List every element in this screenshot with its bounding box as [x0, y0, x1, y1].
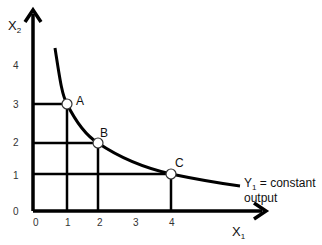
x-tick-0: 0: [33, 217, 39, 228]
x-axis-title: X1: [232, 224, 246, 241]
isoquant-chart: A B C 0 1 2 3 4 0 1 2 3 4 X2 X1 Y1 = con…: [0, 0, 322, 245]
guide-lines: [33, 104, 171, 211]
x-tick-1: 1: [65, 217, 71, 228]
x-tick-3: 3: [133, 217, 139, 228]
isoquant-curve: [55, 48, 240, 186]
point-b-label: B: [100, 126, 108, 140]
point-a-label: A: [76, 94, 84, 108]
y-tick-3: 3: [13, 99, 19, 110]
x-tick-2: 2: [97, 217, 103, 228]
axes: [25, 10, 266, 219]
point-c: [166, 169, 176, 179]
data-points: [62, 99, 176, 179]
y-tick-0: 0: [13, 206, 19, 217]
x-tick-4: 4: [169, 217, 175, 228]
point-a: [62, 99, 72, 109]
y-tick-4: 4: [13, 60, 19, 71]
curve-label-line2: output: [244, 191, 278, 205]
y-tick-1: 1: [13, 170, 19, 181]
point-c-label: C: [175, 156, 184, 170]
y-axis-title: X2: [8, 18, 22, 35]
curve-label: Y1 = constant: [244, 176, 316, 192]
y-tick-2: 2: [13, 137, 19, 148]
